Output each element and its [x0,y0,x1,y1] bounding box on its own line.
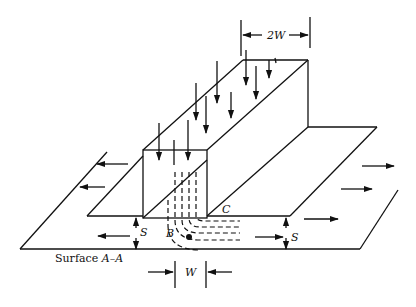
diagram-canvas: S S 2W W B C Surface A–A [0,0,416,307]
top-width-label: 2W [266,29,287,42]
point-c-label: C [222,203,231,216]
bottom-width-label: W [185,266,198,279]
lower-plane [20,152,398,249]
left-outward-arrows [80,164,130,236]
point-b-label: B [165,227,174,240]
surface-caption-prefix: Surface [55,252,102,265]
right-outward-arrows [255,166,394,237]
surface-caption-name: A–A [101,252,123,265]
diagram-svg: S S 2W W B C Surface A–A [0,0,416,307]
left-s-label: S [140,226,148,239]
right-s-label: S [291,231,299,244]
block [143,60,308,218]
downward-load-arrows [159,50,276,165]
surface-caption: Surface A–A [55,252,123,265]
point-b-dot [186,234,192,240]
upper-slab [87,127,377,216]
